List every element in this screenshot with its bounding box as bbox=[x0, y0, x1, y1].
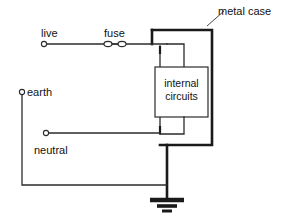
neutral-terminal-circle bbox=[43, 130, 48, 135]
diagram-canvas: internal circuits live fuse earth bbox=[0, 0, 290, 221]
internal-circuits-label-line1: internal bbox=[164, 77, 198, 89]
fuse-label: fuse bbox=[104, 27, 125, 39]
ground-symbol bbox=[150, 200, 184, 211]
internal-circuits-label-line2: circuits bbox=[165, 90, 198, 102]
earth-terminal-circle bbox=[19, 89, 24, 94]
metal-case-label: metal case bbox=[218, 5, 271, 17]
circuit-diagram: internal circuits live fuse earth bbox=[0, 0, 290, 221]
earth-wire bbox=[22, 95, 167, 185]
live-terminal-circle bbox=[41, 41, 46, 46]
live-label: live bbox=[41, 27, 58, 39]
internal-circuits-return-wire bbox=[160, 117, 184, 134]
neutral-label: neutral bbox=[34, 144, 68, 156]
live-wire-to-internal-circuits bbox=[167, 44, 184, 67]
earth-label: earth bbox=[27, 86, 52, 98]
fuse-symbol bbox=[104, 41, 126, 46]
